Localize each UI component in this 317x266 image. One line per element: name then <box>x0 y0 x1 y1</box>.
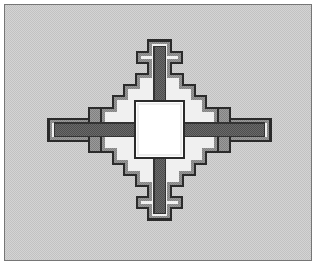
figure-root: Cruciform stepped plan <box>0 0 317 266</box>
cruciform-plan-svg <box>0 0 317 266</box>
central-chamber-overlay <box>135 101 184 158</box>
